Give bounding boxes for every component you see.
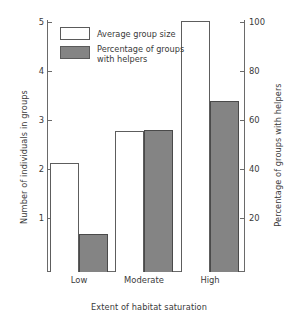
y-axis-right-tick-100 (240, 22, 244, 23)
y-axis-right-tick-label-80: 80 (249, 66, 271, 76)
bar-high-percentage-with-helpers (210, 101, 239, 272)
y-axis-right-spine (244, 20, 245, 272)
x-axis-category-label-low: Low (49, 275, 109, 285)
chart-figure: Number of individuals in groups Percenta… (0, 0, 298, 322)
bar-high-average-group-size (181, 21, 210, 272)
y-axis-left-spine (47, 20, 48, 272)
bar-moderate-percentage-with-helpers (144, 130, 173, 272)
y-axis-right-tick-60 (240, 120, 244, 121)
y-axis-right-tick-40 (240, 169, 244, 170)
y-axis-right-tick-label-20: 20 (249, 213, 271, 223)
y-axis-left-tick-label-4: 4 (30, 66, 44, 76)
y-axis-left-tick-4 (48, 71, 52, 72)
bar-low-average-group-size (50, 163, 79, 272)
y-axis-right-tick-label-40: 40 (249, 164, 271, 174)
legend-swatch-average-group-size (60, 27, 90, 40)
y-axis-left-tick-label-3: 3 (30, 115, 44, 125)
y-axis-left-tick-label-1: 1 (30, 213, 44, 223)
legend-label-average-group-size: Average group size (97, 29, 175, 39)
legend-label-percentage-with-helpers: Percentage of groups with helpers (97, 44, 184, 64)
y-axis-right-tick-20 (240, 218, 244, 219)
y-axis-left-tick-label-2: 2 (30, 164, 44, 174)
y-axis-left-title: Number of individuals in groups (19, 77, 29, 237)
y-axis-right-title: Percentage of groups with helpers (273, 75, 283, 235)
bar-low-percentage-with-helpers (79, 234, 108, 272)
y-axis-right-tick-80 (240, 71, 244, 72)
bar-moderate-average-group-size (115, 131, 144, 272)
y-axis-left-tick-3 (48, 120, 52, 121)
x-axis-title: Extent of habitat saturation (0, 302, 298, 312)
legend-swatch-percentage-with-helpers (60, 46, 90, 59)
y-axis-left-tick-5 (48, 22, 52, 23)
y-axis-left-tick-label-5: 5 (30, 17, 44, 27)
x-axis-category-label-high: High (180, 275, 240, 285)
x-axis-category-label-moderate: Moderate (114, 275, 174, 285)
y-axis-right-tick-label-100: 100 (249, 17, 271, 27)
y-axis-right-tick-label-60: 60 (249, 115, 271, 125)
